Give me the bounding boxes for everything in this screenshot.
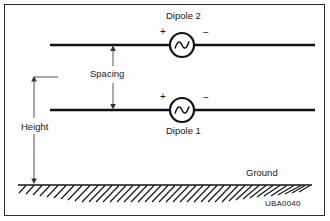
dipole-2-positive-terminal-label: + <box>160 27 166 37</box>
ground-label: Ground <box>246 168 278 178</box>
dipole-1-positive-terminal-label: + <box>160 92 166 102</box>
dipole-2-negative-terminal-label: − <box>203 28 209 38</box>
dipole-1-negative-terminal-label: − <box>203 93 209 103</box>
dipole-1-label: Dipole 1 <box>166 126 201 136</box>
figure-container: Dipole 2 Dipole 1 Spacing Height Ground … <box>0 0 330 221</box>
figure-id-label: UBA0040 <box>265 200 301 208</box>
spacing-label: Spacing <box>90 69 124 79</box>
dipole-2-label: Dipole 2 <box>166 11 201 21</box>
height-label: Height <box>21 122 48 132</box>
